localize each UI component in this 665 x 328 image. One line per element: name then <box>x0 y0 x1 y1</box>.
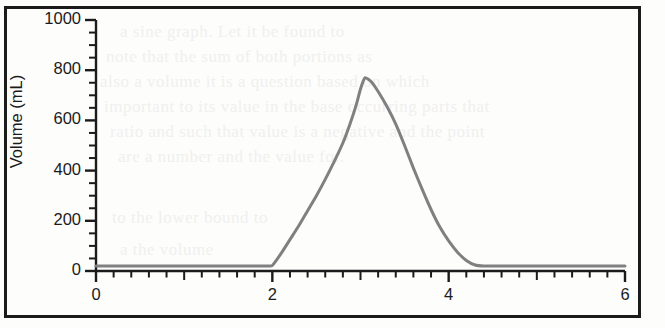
chart-plot <box>0 0 665 328</box>
y-tick-label: 1000 <box>21 9 81 28</box>
x-tick-label: 6 <box>605 285 645 304</box>
y-tick-label: 600 <box>21 109 81 128</box>
x-tick-label: 0 <box>76 285 116 304</box>
axes-group <box>96 20 625 271</box>
y-tick-label: 200 <box>21 210 81 229</box>
y-tick-label: 0 <box>21 260 81 279</box>
y-tick-label: 400 <box>21 160 81 179</box>
x-tick-label: 2 <box>252 285 292 304</box>
data-curve-volume <box>96 78 625 266</box>
tick-marks <box>85 20 625 282</box>
x-tick-label: 4 <box>429 285 469 304</box>
figure-container: a sine graph. Let it be found to note th… <box>0 0 665 328</box>
y-tick-label: 800 <box>21 59 81 78</box>
